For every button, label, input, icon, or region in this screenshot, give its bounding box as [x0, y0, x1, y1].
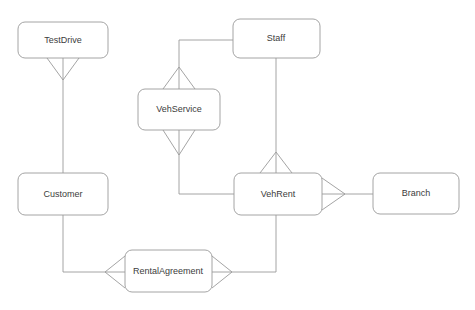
entity-customer-box[interactable] [18, 173, 108, 215]
entity-branch[interactable]: Branch [373, 173, 459, 214]
entity-testdrive-box[interactable] [18, 22, 108, 58]
entity-customer[interactable]: Customer [18, 173, 108, 215]
er-diagram-svg: TestDrive Customer VehService Staff VehR… [0, 0, 475, 310]
entity-rentalagreement-box[interactable] [125, 250, 212, 292]
entity-vehservice[interactable]: VehService [138, 89, 220, 130]
er-diagram-canvas: TestDrive Customer VehService Staff VehR… [0, 0, 475, 310]
entity-vehservice-box[interactable] [138, 89, 220, 130]
entity-staff[interactable]: Staff [233, 19, 320, 58]
connector-vehservice-vehrent [179, 130, 234, 194]
entity-branch-box[interactable] [373, 173, 459, 214]
entity-staff-box[interactable] [233, 19, 320, 58]
connector-layer [63, 40, 373, 272]
entity-vehrent[interactable]: VehRent [234, 173, 322, 215]
entity-layer: TestDrive Customer VehService Staff VehR… [18, 19, 459, 292]
entity-vehrent-box[interactable] [234, 173, 322, 215]
connector-staff-vehservice [179, 40, 233, 89]
entity-rentalagreement[interactable]: RentalAgreement [125, 250, 212, 292]
entity-testdrive[interactable]: TestDrive [18, 22, 108, 58]
